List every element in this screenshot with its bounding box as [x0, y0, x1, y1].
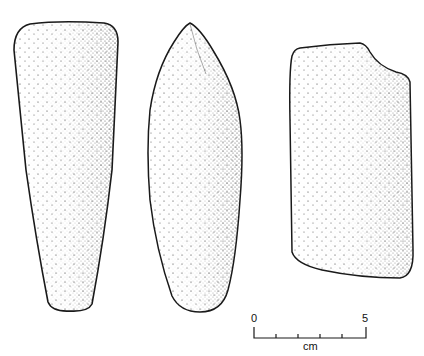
scale-bar — [254, 327, 366, 338]
artifact-1 — [14, 22, 118, 311]
scale-unit-label: cm — [303, 341, 318, 352]
artifact-3 — [290, 43, 413, 278]
scale-start-label: 0 — [251, 313, 257, 324]
artifact-2 — [148, 23, 242, 312]
drawing-canvas — [0, 0, 424, 356]
scale-end-label: 5 — [362, 313, 368, 324]
